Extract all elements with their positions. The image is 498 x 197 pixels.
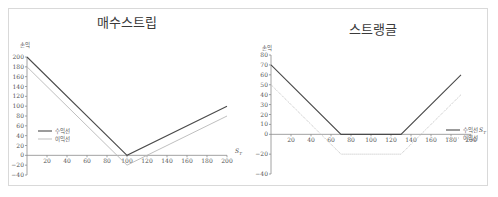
y-tick-label: 160 bbox=[13, 73, 25, 80]
x-tick-label: 180 bbox=[445, 136, 457, 143]
legend-label: 수익선 bbox=[463, 126, 478, 134]
y-tick-label: 50 bbox=[260, 81, 268, 88]
y-tick-label: 120 bbox=[13, 92, 25, 99]
x-tick-label: 40 bbox=[307, 136, 315, 143]
y-tick-label: 140 bbox=[13, 83, 25, 90]
y-tick-label: 30 bbox=[260, 101, 268, 108]
x-tick-label: 120 bbox=[385, 136, 397, 143]
y-tick-label: 20 bbox=[16, 142, 24, 149]
y-tick-label: −40 bbox=[255, 170, 268, 177]
chart-title: 매수스트립 bbox=[97, 15, 157, 30]
chart-title: 스트랭글 bbox=[349, 22, 397, 37]
x-tick-label: 100 bbox=[365, 136, 377, 143]
legend-label: 수익선 bbox=[55, 127, 70, 135]
y-tick-label: 70 bbox=[260, 61, 268, 68]
x-axis-label: ST bbox=[479, 126, 486, 135]
x-tick-label: 40 bbox=[63, 157, 71, 164]
y-tick-label: 80 bbox=[16, 112, 24, 119]
y-tick-label: 0 bbox=[20, 151, 24, 158]
x-tick-label: 140 bbox=[161, 157, 173, 164]
charts-svg: 매수스트립손익−40−20020406080100120140160180200… bbox=[0, 0, 498, 197]
y-tick-label: 10 bbox=[260, 120, 268, 127]
x-tick-label: 160 bbox=[181, 157, 193, 164]
y-tick-label: 60 bbox=[260, 71, 268, 78]
y-tick-label: 200 bbox=[13, 53, 25, 60]
legend-label: 이익선 bbox=[55, 135, 70, 143]
x-tick-label: 120 bbox=[141, 157, 153, 164]
series-line-payoff bbox=[271, 65, 461, 134]
x-tick-label: 180 bbox=[201, 157, 213, 164]
x-tick-label: 80 bbox=[103, 157, 111, 164]
y-tick-label: −40 bbox=[11, 171, 24, 178]
long-strip-chart: 매수스트립손익−40−20020406080100120140160180200… bbox=[11, 15, 242, 178]
x-tick-label: 160 bbox=[425, 136, 437, 143]
x-tick-label: 20 bbox=[287, 136, 295, 143]
x-tick-label: 60 bbox=[83, 157, 91, 164]
strangle-chart: 스트랭글손익−40−200102030405060708020406080100… bbox=[255, 22, 486, 177]
y-tick-label: −20 bbox=[255, 150, 268, 157]
y-tick-label: −20 bbox=[11, 161, 24, 168]
y-tick-label: 0 bbox=[264, 130, 268, 137]
y-tick-label: 100 bbox=[13, 102, 25, 109]
y-tick-label: 40 bbox=[260, 91, 268, 98]
x-tick-label: 60 bbox=[327, 136, 335, 143]
y-tick-label: 60 bbox=[16, 122, 24, 129]
legend-label: 이익선 bbox=[463, 134, 478, 142]
x-tick-label: 200 bbox=[221, 157, 233, 164]
y-axis-label: 손익 bbox=[20, 41, 30, 49]
y-tick-label: 80 bbox=[260, 51, 268, 58]
series-line-profit bbox=[271, 85, 461, 154]
x-tick-label: 20 bbox=[43, 157, 51, 164]
x-axis-label: ST bbox=[235, 147, 242, 156]
y-tick-label: 20 bbox=[260, 111, 268, 118]
y-tick-label: 180 bbox=[13, 63, 25, 70]
y-tick-label: 40 bbox=[16, 132, 24, 139]
x-tick-label: 80 bbox=[347, 136, 355, 143]
series-line-profit bbox=[27, 67, 227, 165]
